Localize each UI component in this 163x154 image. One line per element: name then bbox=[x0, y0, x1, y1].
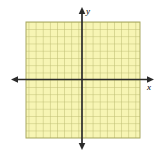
x-axis-label: x bbox=[147, 83, 151, 92]
coordinate-plane-figure bbox=[0, 0, 163, 154]
y-axis-label: y bbox=[86, 7, 90, 16]
